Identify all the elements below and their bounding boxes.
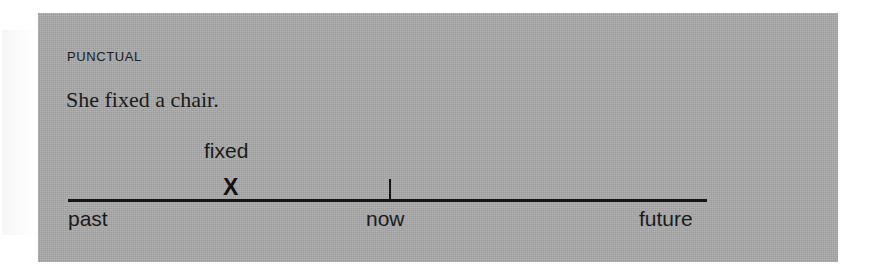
scan-artifact [2, 30, 38, 235]
example-sentence: She fixed a chair. [66, 87, 219, 113]
aspect-category-label: Punctual [67, 44, 142, 66]
figure-panel [38, 13, 838, 262]
aspect-timeline-figure: Punctual She fixed a chair. fixed X past… [0, 0, 880, 276]
